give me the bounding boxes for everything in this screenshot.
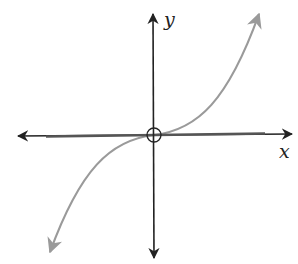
cubic-graph — [0, 0, 298, 264]
tangent-line — [46, 134, 265, 137]
y-axis — [153, 14, 154, 258]
x-axis-label: x — [279, 142, 290, 161]
y-axis-label: y — [164, 10, 175, 29]
graph-canvas: y x — [0, 0, 298, 264]
